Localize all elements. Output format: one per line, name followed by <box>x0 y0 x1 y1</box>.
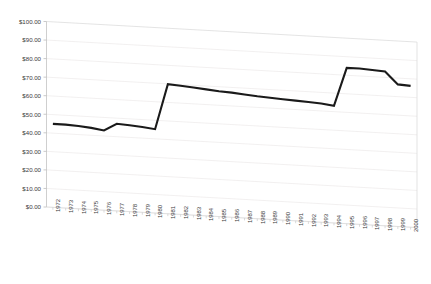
x-axis-tick-label: 1993 <box>323 214 329 227</box>
x-axis-tick-label: 1983 <box>196 207 202 220</box>
gridline <box>47 114 418 135</box>
x-axis-tick-label: 1975 <box>93 201 99 214</box>
y-axis-tick-label: $90.00 <box>0 36 41 43</box>
x-axis-tick-label: 1994 <box>336 215 342 228</box>
gridlines-group <box>47 22 418 228</box>
y-axis-tick-label: $100.00 <box>0 18 41 25</box>
x-axis-tick-label: 1982 <box>183 206 189 219</box>
y-axis-tick-label: $50.00 <box>0 111 41 118</box>
x-axis-tick-label: 1981 <box>170 206 176 219</box>
x-axis-tick-label: 1987 <box>247 210 253 223</box>
x-axis-tick-label: 1995 <box>349 216 355 229</box>
y-axis-tick-label: $0.00 <box>0 203 41 210</box>
line-chart-plot <box>0 0 431 284</box>
x-axis-tick-label: 1988 <box>260 211 266 224</box>
y-axis-tick-label: $60.00 <box>0 92 41 99</box>
x-axis-tick-label: 1976 <box>106 202 112 215</box>
x-axis-tick-label: 1980 <box>157 205 163 218</box>
x-axis-tick-label: 1979 <box>145 204 151 217</box>
gridline <box>47 22 418 43</box>
gridline <box>47 40 418 61</box>
gridline <box>47 188 418 209</box>
y-axis-tick-label: $30.00 <box>0 148 41 155</box>
x-axis-tick-label: 1974 <box>81 201 87 214</box>
x-axis-tick-label: 2000 <box>413 219 419 232</box>
x-axis-tick-label: 1999 <box>400 218 406 231</box>
gridline <box>47 133 418 154</box>
x-axis-tick-label: 1986 <box>234 209 240 222</box>
x-axis-tick-label: 1997 <box>374 217 380 230</box>
y-axis-tick-label: $20.00 <box>0 166 41 173</box>
gridline <box>47 77 418 98</box>
gridline <box>47 151 418 172</box>
x-axis-tick-label: 1996 <box>362 216 368 229</box>
x-axis-tick-label: 1990 <box>285 212 291 225</box>
x-axis-tick-label: 1992 <box>311 213 317 226</box>
x-axis-tick-label: 1977 <box>119 203 125 216</box>
x-axis-tick-label: 1985 <box>221 208 227 221</box>
x-axis-tick-label: 1998 <box>387 218 393 231</box>
x-axis-tick-label: 1991 <box>298 213 304 226</box>
y-axis-tick-label: $70.00 <box>0 74 41 81</box>
chart-container: $100.00$90.00$80.00$70.00$60.00$50.00$40… <box>0 0 431 284</box>
gridline <box>47 170 418 191</box>
x-axis-tick-label: 1989 <box>272 211 278 224</box>
y-axis-tick-label: $10.00 <box>0 185 41 192</box>
x-axis-tick-label: 1972 <box>55 199 61 212</box>
x-axis-tick-label: 1973 <box>68 200 74 213</box>
x-axis-tick-label: 1984 <box>208 208 214 221</box>
y-axis-tick-label: $40.00 <box>0 129 41 136</box>
y-axis-tick-label: $80.00 <box>0 55 41 62</box>
gridline <box>47 96 418 117</box>
x-axis-tick-label: 1978 <box>132 203 138 216</box>
